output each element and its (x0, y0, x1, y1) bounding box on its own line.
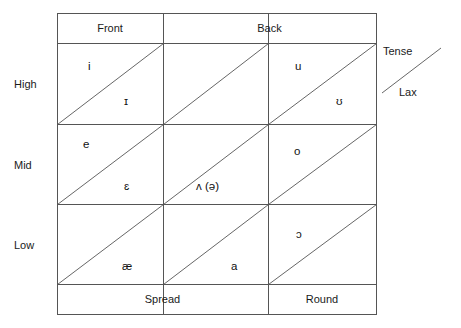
row-label-low: Low (14, 239, 58, 251)
diagonal-low-back (269, 205, 377, 285)
column-footer-spread: Spread (57, 293, 268, 305)
vowel-high-back-tense: u (295, 60, 301, 72)
vowel-low-front-lax: æ (122, 260, 132, 272)
diagonal-high-central (164, 44, 269, 125)
column-header-back: Back (163, 22, 376, 34)
vowel-chart: Front Back High Mid Low i ɪ u ʊ e ɛ ʌ (ə… (0, 0, 461, 328)
row-label-mid: Mid (14, 159, 58, 171)
row-label-high: High (14, 78, 58, 90)
vowel-mid-front-lax: ɛ (124, 180, 129, 192)
table-outer-border (58, 14, 377, 315)
vowel-mid-central-lax: ʌ (ə) (196, 180, 219, 192)
column-footer-round: Round (268, 293, 376, 305)
diagonal-high-back (269, 44, 377, 125)
diagonal-mid-front (58, 125, 164, 205)
vowel-low-back-tense: ɔ (296, 228, 302, 240)
vowel-high-front-tense: i (88, 60, 91, 72)
diagonal-mid-central (164, 125, 269, 205)
vowel-mid-back-tense: o (294, 145, 300, 157)
diagonal-low-front (58, 205, 164, 285)
vowel-high-front-lax: ɪ (124, 95, 128, 107)
column-header-front: Front (57, 22, 163, 34)
diagonal-mid-back (269, 125, 377, 205)
vowel-mid-front-tense: e (83, 138, 89, 150)
vowel-high-back-lax: ʊ (336, 95, 343, 107)
legend-lax-label: Lax (399, 86, 417, 98)
diagonal-high-front (58, 44, 164, 125)
diagonal-low-central (164, 205, 269, 285)
vowel-low-central-lax: a (231, 260, 237, 272)
legend-tense-label: Tense (383, 45, 412, 57)
